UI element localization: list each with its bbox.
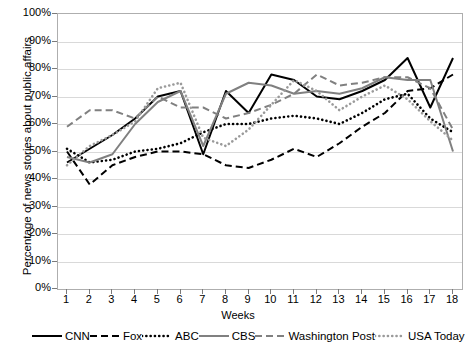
- x-tick-mark: [429, 289, 430, 294]
- x-tick-mark: [338, 289, 339, 294]
- x-tick-label: 10: [258, 293, 282, 305]
- legend-swatch-icon: [90, 331, 120, 341]
- x-tick-label: 12: [304, 293, 328, 305]
- legend-item-cnn: CNN: [32, 330, 90, 342]
- x-tick-label: 11: [281, 293, 305, 305]
- legend-swatch-icon: [375, 331, 405, 341]
- legend-label: Washington Post: [288, 330, 375, 342]
- x-tick-label: 18: [440, 293, 464, 305]
- x-tick-label: 16: [395, 293, 419, 305]
- legend-item-fox: Fox: [90, 330, 142, 342]
- x-tick-label: 5: [145, 293, 169, 305]
- legend-item-usa-today: USA Today: [375, 330, 465, 342]
- legend-swatch-icon: [255, 331, 285, 341]
- x-tick-label: 4: [122, 293, 146, 305]
- chart-legend: CNNFoxABCCBSWashington PostUSA Today: [32, 325, 462, 347]
- x-tick-label: 2: [77, 293, 101, 305]
- x-tick-mark: [202, 289, 203, 294]
- x-tick-mark: [89, 289, 90, 294]
- x-tick-label: 14: [349, 293, 373, 305]
- x-tick-mark: [316, 289, 317, 294]
- x-tick-mark: [452, 289, 453, 294]
- legend-swatch-icon: [199, 331, 229, 341]
- x-tick-label: 9: [236, 293, 260, 305]
- legend-label: Fox: [123, 330, 142, 342]
- x-tick-label: 6: [168, 293, 192, 305]
- x-tick-label: 3: [99, 293, 123, 305]
- legend-swatch-icon: [32, 331, 62, 341]
- x-axis-title: Weeks: [0, 309, 476, 321]
- x-tick-label: 1: [54, 293, 78, 305]
- x-tick-mark: [361, 289, 362, 294]
- x-tick-mark: [111, 289, 112, 294]
- legend-label: CNN: [65, 330, 90, 342]
- x-tick-mark: [225, 289, 226, 294]
- x-tick-mark: [270, 289, 271, 294]
- legend-label: CBS: [232, 330, 256, 342]
- x-tick-mark: [407, 289, 408, 294]
- x-tick-mark: [134, 289, 135, 294]
- chart-container: Percentage of news stories about public …: [0, 0, 476, 354]
- legend-label: USA Today: [408, 330, 465, 342]
- x-tick-mark: [66, 289, 67, 294]
- x-tick-mark: [293, 289, 294, 294]
- x-tick-mark: [180, 289, 181, 294]
- x-tick-label: 7: [190, 293, 214, 305]
- x-tick-mark: [384, 289, 385, 294]
- legend-swatch-icon: [142, 331, 172, 341]
- x-tick-label: 17: [417, 293, 441, 305]
- legend-item-abc: ABC: [142, 330, 199, 342]
- x-tick-mark: [157, 289, 158, 294]
- legend-item-washington-post: Washington Post: [255, 330, 375, 342]
- x-tick-label: 15: [372, 293, 396, 305]
- x-tick-label: 8: [213, 293, 237, 305]
- legend-label: ABC: [175, 330, 199, 342]
- x-tick-mark: [248, 289, 249, 294]
- x-axis-ticks: 123456789101112131415161718: [0, 0, 476, 354]
- x-tick-label: 13: [326, 293, 350, 305]
- legend-item-cbs: CBS: [199, 330, 256, 342]
